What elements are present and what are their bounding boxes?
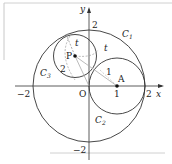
x-axis-label: x — [156, 89, 161, 99]
label-p: P — [66, 51, 72, 61]
label-two: 2 — [60, 64, 66, 74]
point-a — [115, 84, 119, 88]
origin-label: O — [79, 89, 86, 99]
tick-x-neg2: −2 — [17, 89, 30, 99]
dashed-radius-right — [75, 50, 98, 56]
label-one: 1 — [106, 67, 112, 77]
tick-y-2: 2 — [92, 20, 98, 30]
circle-diagram: y x O −2 1 2 2 −2 C1 C2 C3 P A t t 2 1 — [0, 0, 172, 164]
label-c3: C3 — [40, 68, 51, 79]
label-t-top: t — [75, 38, 79, 48]
label-t-right: t — [104, 43, 108, 53]
tick-x-2: 2 — [146, 89, 152, 99]
tick-y-neg2: −2 — [73, 145, 86, 155]
y-axis-label: y — [79, 4, 86, 14]
y-axis-arrow-icon — [87, 7, 91, 13]
segment-po — [75, 56, 89, 86]
x-axis-arrow-icon — [158, 84, 164, 88]
tick-x-1: 1 — [114, 89, 120, 99]
label-c1: C1 — [122, 29, 133, 40]
point-p — [73, 54, 77, 58]
label-c2: C2 — [95, 115, 106, 126]
label-a: A — [117, 74, 125, 84]
